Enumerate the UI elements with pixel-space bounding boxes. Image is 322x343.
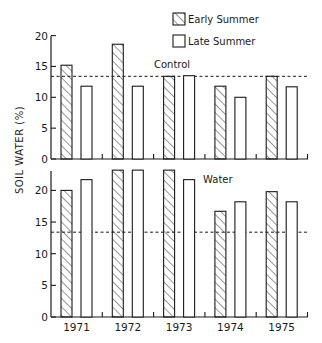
panel-label-control: Control xyxy=(154,59,190,70)
x-category-label: 1973 xyxy=(166,321,193,333)
hatch-swatch-icon xyxy=(173,13,185,25)
early-summer-bar-1972 xyxy=(112,44,123,159)
early-summer-bar-1974 xyxy=(215,211,226,317)
y-tick-label: 15 xyxy=(35,216,48,228)
early-summer-bar-1975 xyxy=(266,192,277,317)
late-summer-bar-1974 xyxy=(235,97,246,159)
early-summer-bar-1972 xyxy=(112,170,123,317)
y-tick-label: 5 xyxy=(41,122,48,134)
late-summer-bar-1971 xyxy=(81,180,92,317)
legend-item-early-summer: Early Summer xyxy=(173,13,260,25)
early-summer-bar-1971 xyxy=(61,190,72,317)
late-summer-bar-1973 xyxy=(184,180,195,317)
y-tick-label: 10 xyxy=(35,248,48,260)
y-tick-label: 20 xyxy=(35,184,48,196)
early-summer-bar-1971 xyxy=(61,65,72,159)
control-panel: 05101520 xyxy=(35,30,308,165)
soil-water-chart: Early Summer Late Summer SOIL WATER (%) … xyxy=(0,0,322,343)
x-category-label: 1971 xyxy=(63,321,90,333)
early-summer-bar-1973 xyxy=(164,170,175,317)
y-tick-label: 15 xyxy=(35,60,48,72)
late-summer-bar-1975 xyxy=(286,202,297,317)
y-tick-label: 5 xyxy=(41,279,48,291)
y-axis-label: SOIL WATER (%) xyxy=(14,106,25,194)
late-summer-bar-1975 xyxy=(286,87,297,159)
open-swatch-icon xyxy=(173,35,185,47)
y-tick-label: 20 xyxy=(35,30,48,42)
water-panel: 05101520 xyxy=(35,170,308,323)
x-category-label: 1972 xyxy=(114,321,141,333)
legend-label-late: Late Summer xyxy=(188,36,256,47)
late-summer-bar-1972 xyxy=(132,86,143,159)
panel-label-water: Water xyxy=(203,174,233,185)
late-summer-bar-1974 xyxy=(235,202,246,317)
early-summer-bar-1975 xyxy=(266,76,277,159)
late-summer-bar-1972 xyxy=(132,170,143,317)
legend: Early Summer Late Summer xyxy=(173,13,260,47)
legend-item-late-summer: Late Summer xyxy=(173,35,256,47)
early-summer-bar-1973 xyxy=(164,76,175,159)
early-summer-bar-1974 xyxy=(215,86,226,159)
late-summer-bar-1973 xyxy=(184,76,195,159)
late-summer-bar-1971 xyxy=(81,86,92,159)
x-category-label: 1975 xyxy=(268,321,295,333)
x-axis-labels: 19711972197319741975 xyxy=(63,321,295,333)
y-tick-label: 10 xyxy=(35,91,48,103)
legend-label-early: Early Summer xyxy=(188,14,260,25)
y-tick-label: 0 xyxy=(41,311,48,323)
y-tick-label: 0 xyxy=(41,153,48,165)
x-category-label: 1974 xyxy=(217,321,244,333)
